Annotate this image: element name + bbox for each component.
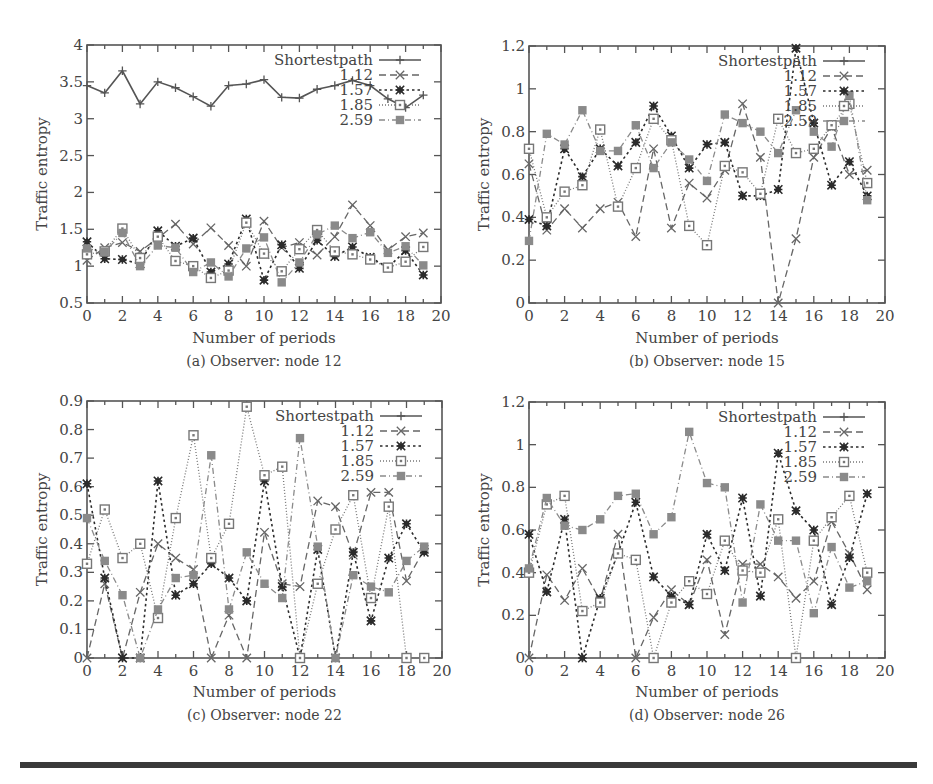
data-point-s112 xyxy=(774,573,782,581)
data-point-s259 xyxy=(101,557,109,565)
x-tick-label: 16 xyxy=(361,307,380,325)
data-point-s157 xyxy=(649,573,657,581)
chart-caption: (a) Observer: node 12 xyxy=(186,353,341,369)
data-point-s259 xyxy=(578,526,586,534)
y-tick-label: 0.8 xyxy=(59,421,83,439)
x-tick-label: 12 xyxy=(290,307,309,325)
data-point-s185 xyxy=(703,590,712,599)
y-tick-label: 0.2 xyxy=(501,606,525,624)
data-point-s157 xyxy=(614,162,622,170)
x-tick-label: 0 xyxy=(82,307,92,325)
series-shortestpath xyxy=(83,67,428,112)
y-tick-label: 0.8 xyxy=(501,123,525,141)
series-s157 xyxy=(525,44,872,230)
data-point-s112 xyxy=(649,613,657,621)
data-point-s185 xyxy=(154,614,163,623)
y-tick-label: 3.5 xyxy=(59,73,83,91)
data-point-s185 xyxy=(756,189,765,198)
data-point-s185 xyxy=(667,598,676,607)
x-tick-label: 6 xyxy=(631,662,641,680)
data-point-shortestpath xyxy=(242,80,250,88)
y-tick-label: 1 xyxy=(73,257,83,275)
data-point-s157 xyxy=(738,192,746,200)
data-point-s259 xyxy=(703,177,711,185)
y-tick-label: 0.4 xyxy=(501,208,525,226)
chart-caption: (b) Observer: node 15 xyxy=(629,353,785,369)
data-point-s259 xyxy=(774,536,782,544)
data-point-s112 xyxy=(560,205,568,213)
data-point-s259 xyxy=(314,542,322,550)
data-point-s259 xyxy=(756,500,764,508)
legend: Shortestpath1.121.571.852.59 xyxy=(718,52,865,130)
data-point-s157 xyxy=(845,157,853,165)
legend-marker xyxy=(840,102,849,111)
series-s157 xyxy=(83,215,428,285)
data-point-s157 xyxy=(543,222,551,230)
data-point-s112 xyxy=(136,588,144,596)
data-point-s259 xyxy=(313,230,321,238)
data-point-s185 xyxy=(118,554,127,563)
series-line-s112 xyxy=(87,492,424,658)
data-point-s185 xyxy=(171,256,180,265)
data-point-s185 xyxy=(774,515,783,524)
data-point-s185 xyxy=(649,114,658,123)
data-point-s185 xyxy=(827,513,836,522)
y-tick-label: 1.5 xyxy=(59,220,83,238)
data-point-s112 xyxy=(331,232,339,240)
data-point-s259 xyxy=(863,577,871,585)
data-point-s259 xyxy=(420,542,428,550)
data-point-s259 xyxy=(401,242,409,250)
y-tick-label: 2 xyxy=(73,183,83,201)
data-point-s112 xyxy=(331,502,339,510)
y-tick-label: 0.4 xyxy=(501,564,525,582)
data-point-s185 xyxy=(845,491,854,500)
series-line-s185 xyxy=(529,496,867,658)
data-point-s185 xyxy=(136,539,145,548)
data-point-s259 xyxy=(278,278,286,286)
y-tick-label: 0.2 xyxy=(59,592,83,610)
legend-marker xyxy=(840,473,848,481)
y-tick-label: 0.4 xyxy=(59,535,83,553)
data-point-s157 xyxy=(101,574,109,582)
x-tick-label: 8 xyxy=(224,662,234,680)
data-point-s112 xyxy=(721,630,729,638)
data-point-s185 xyxy=(366,255,375,264)
series-s259 xyxy=(83,434,429,662)
data-point-s259 xyxy=(118,229,126,237)
series-s112 xyxy=(83,488,429,662)
data-point-s259 xyxy=(331,654,339,662)
data-point-s185 xyxy=(649,654,658,663)
data-point-s112 xyxy=(810,577,818,585)
legend-marker xyxy=(840,117,848,125)
data-point-s157 xyxy=(827,181,835,189)
data-point-s259 xyxy=(525,564,533,572)
data-point-s157 xyxy=(632,138,640,146)
data-point-s259 xyxy=(367,582,375,590)
data-point-s259 xyxy=(685,428,693,436)
data-point-s259 xyxy=(738,598,746,606)
x-tick-label: 14 xyxy=(326,662,345,680)
data-point-s185 xyxy=(738,566,747,575)
data-point-s185 xyxy=(560,187,569,196)
data-point-s185 xyxy=(419,242,428,251)
data-point-s259 xyxy=(83,514,91,522)
data-point-s157 xyxy=(402,520,410,528)
x-tick-label: 0 xyxy=(524,307,534,325)
data-point-s259 xyxy=(649,530,657,538)
x-tick-label: 8 xyxy=(667,662,677,680)
data-point-s112 xyxy=(154,540,162,548)
data-point-s112 xyxy=(614,530,622,538)
legend-marker xyxy=(840,57,848,65)
x-tick-label: 10 xyxy=(697,307,716,325)
data-point-s185 xyxy=(738,168,747,177)
legend-marker xyxy=(396,116,404,124)
data-point-s259 xyxy=(224,272,232,280)
legend-marker xyxy=(840,443,848,451)
data-point-s112 xyxy=(578,224,586,232)
data-point-s259 xyxy=(171,244,179,252)
x-tick-label: 2 xyxy=(560,662,570,680)
data-point-s259 xyxy=(863,196,871,204)
data-point-s112 xyxy=(703,556,711,564)
data-point-s185 xyxy=(189,431,198,440)
data-point-s259 xyxy=(543,130,551,138)
